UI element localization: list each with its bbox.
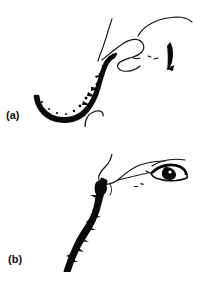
panel-a bbox=[26, 14, 193, 127]
panel-b-artwork bbox=[30, 154, 190, 272]
panel-a-label: (a) bbox=[6, 110, 19, 121]
panel-b-label: (b) bbox=[8, 254, 22, 265]
panel-b bbox=[30, 154, 190, 272]
figure-container: (a) bbox=[0, 0, 201, 284]
panel-a-artwork bbox=[26, 14, 193, 127]
eye-highlight bbox=[168, 170, 171, 173]
